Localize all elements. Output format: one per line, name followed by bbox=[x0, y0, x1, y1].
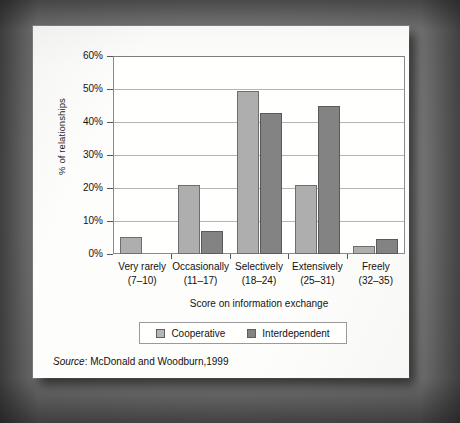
x-axis-title: Score on information exchange bbox=[113, 298, 405, 309]
legend-item-interdependent: Interdependent bbox=[247, 328, 329, 339]
legend-swatch-cooperative bbox=[156, 329, 165, 338]
bar-freely-cooperative bbox=[353, 246, 375, 254]
legend-label-interdependent: Interdependent bbox=[262, 328, 329, 339]
category-name: Selectively bbox=[235, 261, 283, 272]
category-range: (32–35) bbox=[338, 274, 414, 288]
legend-label-cooperative: Cooperative bbox=[171, 328, 225, 339]
bar-chart-figure: % of relationships 0%10%20%30%40%50%60% … bbox=[33, 26, 409, 378]
source-text: McDonald and Woodburn,1999 bbox=[90, 356, 228, 367]
bar-occasionally-cooperative bbox=[178, 185, 200, 254]
bar-selectively-cooperative bbox=[237, 91, 259, 254]
y-axis-tick-label: 60% bbox=[63, 50, 103, 61]
y-axis-tick-label: 50% bbox=[63, 83, 103, 94]
bar-occasionally-interdependent bbox=[201, 231, 223, 254]
category-label-freely: Freely(32–35) bbox=[338, 260, 414, 288]
bar-freely-interdependent bbox=[376, 239, 398, 254]
x-axis-tick-mark bbox=[288, 254, 289, 259]
y-axis-tick-label: 10% bbox=[63, 215, 103, 226]
bar-selectively-interdependent bbox=[260, 113, 282, 254]
legend-swatch-interdependent bbox=[247, 329, 256, 338]
x-axis-tick-mark bbox=[171, 254, 172, 259]
source-separator: : bbox=[85, 356, 88, 367]
x-axis-tick-mark bbox=[347, 254, 348, 259]
category-name: Very rarely bbox=[118, 261, 166, 272]
source-line: Source: McDonald and Woodburn,1999 bbox=[53, 356, 229, 367]
chart-legend: Cooperative Interdependent bbox=[139, 322, 347, 344]
y-axis-tick-label: 30% bbox=[63, 149, 103, 160]
category-name: Extensively bbox=[292, 261, 343, 272]
bars-layer bbox=[113, 56, 405, 254]
scanned-page: % of relationships 0%10%20%30%40%50%60% … bbox=[33, 26, 409, 378]
y-axis-tick-label: 20% bbox=[63, 182, 103, 193]
y-axis-tick-mark bbox=[107, 254, 113, 255]
legend-item-cooperative: Cooperative bbox=[156, 328, 225, 339]
y-axis-tick-label: 40% bbox=[63, 116, 103, 127]
category-name: Freely bbox=[362, 261, 390, 272]
bar-extensively-interdependent bbox=[318, 106, 340, 255]
source-label: Source bbox=[53, 356, 85, 367]
y-axis-tick-label: 0% bbox=[63, 248, 103, 259]
bar-extensively-cooperative bbox=[295, 185, 317, 254]
bar-very-rarely-cooperative bbox=[120, 237, 142, 254]
x-axis-tick-mark bbox=[230, 254, 231, 259]
